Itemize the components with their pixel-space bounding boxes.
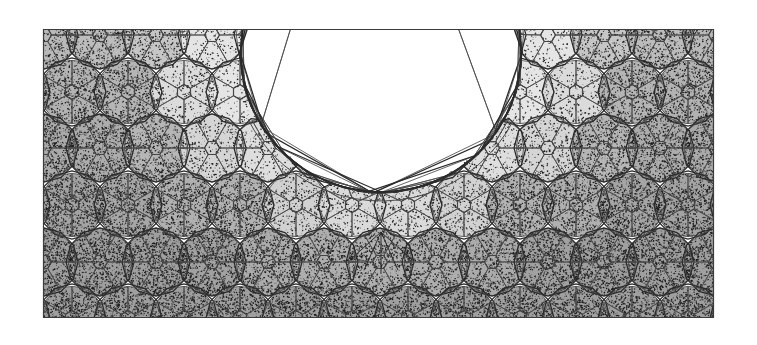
stipple-illustration-canvas [0, 0, 757, 345]
figure-root: Stippled cellular packing with spherical… [0, 0, 757, 345]
